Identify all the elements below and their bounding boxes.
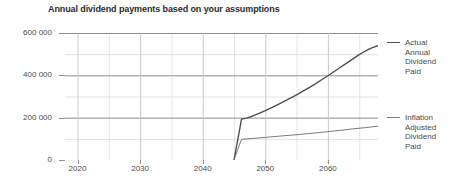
series-lines — [234, 46, 378, 160]
x-tick-label: 2040 — [183, 164, 223, 173]
x-tick-label: 2050 — [245, 164, 285, 173]
y-tick-label: 0 — [0, 155, 59, 164]
legend-line-icon-actual — [387, 38, 400, 47]
x-tick-mark — [203, 160, 204, 164]
legend-label-inflation: Inflation Adjusted Dividend Paid — [405, 113, 436, 151]
major-vertical-gridlines — [78, 33, 328, 160]
x-tick-label: 2060 — [308, 164, 348, 173]
y-tick-label: 600 000 — [0, 28, 59, 37]
plot-area — [65, 33, 378, 160]
x-tick-label: 2030 — [120, 164, 160, 173]
legend-label-actual: Actual Annual Dividend Paid — [405, 38, 436, 76]
minor-horizontal-gridlines — [65, 55, 378, 140]
minor-vertical-gridlines — [109, 33, 359, 160]
y-tick-mark — [59, 160, 65, 161]
series-line-0 — [234, 46, 378, 160]
chart-figure: Annual dividend payments based on your a… — [0, 0, 465, 186]
legend-line-icon-inflation — [387, 113, 400, 122]
x-tick-mark — [265, 160, 266, 164]
legend-item-inflation-adjusted-dividend-paid[interactable]: Inflation Adjusted Dividend Paid — [387, 113, 436, 151]
chart-title: Annual dividend payments based on your a… — [48, 4, 280, 14]
y-tick-label: 400 000 — [0, 70, 59, 79]
series-line-1 — [234, 126, 378, 160]
x-tick-mark — [140, 160, 141, 164]
x-tick-mark — [78, 160, 79, 164]
x-tick-label: 2020 — [58, 164, 98, 173]
plot-svg — [65, 33, 378, 160]
x-tick-mark — [328, 160, 329, 164]
legend-item-actual-annual-dividend-paid[interactable]: Actual Annual Dividend Paid — [387, 38, 436, 76]
y-tick-label: 200 000 — [0, 113, 59, 122]
